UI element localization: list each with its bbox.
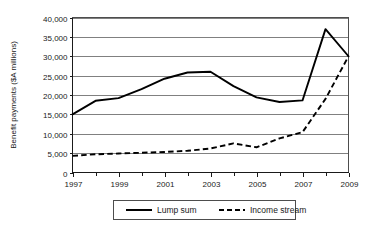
chart-legend: Lump sumIncome stream: [114, 201, 307, 220]
x-tick-label: 2007: [295, 180, 313, 189]
x-tick-label: 2009: [341, 180, 359, 189]
y-tick-label: 35,000: [43, 34, 68, 43]
x-tick-label: 1999: [111, 180, 129, 189]
y-tick-label: 30,000: [43, 53, 68, 62]
x-tick-label: 2003: [203, 180, 221, 189]
x-tick-label: 1997: [65, 180, 83, 189]
chart-figure: 05,00010,00015,00020,00025,00030,00035,0…: [0, 0, 372, 230]
data-series-group: [73, 29, 349, 156]
x-tick-label: 2005: [249, 180, 267, 189]
legend-label-lump-sum: Lump sum: [157, 205, 197, 215]
benefit-payments-line-chart: 05,00010,00015,00020,00025,00030,00035,0…: [0, 0, 372, 230]
y-tick-label: 5,000: [47, 150, 68, 159]
legend-label-income-stream: Income stream: [250, 205, 306, 215]
y-axis-title: Benefit payments ($A millions): [9, 41, 18, 149]
y-tick-label: 40,000: [43, 15, 68, 24]
y-tick-label: 15,000: [43, 111, 68, 120]
y-axis-ticks-group: 05,00010,00015,00020,00025,00030,00035,0…: [43, 15, 72, 179]
y-tick-label: 10,000: [43, 131, 68, 140]
y-tick-label: 0: [63, 170, 68, 179]
y-tick-label: 25,000: [43, 73, 68, 82]
x-tick-label: 2001: [157, 180, 175, 189]
y-tick-label: 20,000: [43, 92, 68, 101]
series-line-lump-sum: [73, 29, 349, 114]
x-axis-ticks-group: 1997199920012003200520072009: [65, 173, 359, 189]
